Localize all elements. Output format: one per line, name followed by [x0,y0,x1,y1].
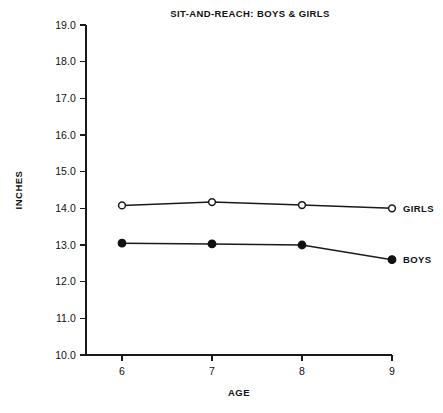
y-tick-label: 18.0 [55,55,76,67]
chart-container: SIT-AND-REACH: BOYS & GIRLS INCHES AGE 1… [0,0,443,413]
x-tick-label: 6 [119,365,125,377]
data-point-girls [299,202,306,209]
series-line-boys [122,243,392,260]
series-label-girls: GIRLS [403,203,434,214]
y-tick-label: 15.0 [55,165,76,177]
data-point-girls [119,202,126,209]
y-tick-label: 14.0 [55,202,76,214]
series-line-girls [122,202,392,208]
y-tick-label: 12.0 [55,275,76,287]
x-tick-label: 9 [389,365,395,377]
y-tick-label: 11.0 [56,312,76,324]
sit-and-reach-line-chart: SIT-AND-REACH: BOYS & GIRLS INCHES AGE 1… [0,0,443,413]
data-point-boys [118,239,126,247]
data-point-girls [389,205,396,212]
y-tick-label: 13.0 [55,239,76,251]
data-point-girls [209,199,216,206]
series-labels-group: GIRLSBOYS [403,203,434,265]
data-series-group [118,199,396,264]
y-tick-label: 10.0 [55,349,76,361]
x-tick-label: 7 [209,365,215,377]
chart-title: SIT-AND-REACH: BOYS & GIRLS [170,8,330,19]
series-label-boys: BOYS [403,254,432,265]
x-axis-title: AGE [228,387,250,398]
y-axis-title: INCHES [13,171,24,210]
data-point-boys [298,241,306,249]
data-point-boys [388,256,396,264]
x-axis-ticks: 6789 [119,355,395,377]
y-axis-ticks: 10.011.012.013.014.015.016.017.018.019.0 [55,19,86,361]
y-tick-label: 19.0 [55,19,76,31]
y-tick-label: 16.0 [55,129,76,141]
axis-lines [86,25,392,355]
x-tick-label: 8 [299,365,305,377]
data-point-boys [208,240,216,248]
y-tick-label: 17.0 [55,92,76,104]
